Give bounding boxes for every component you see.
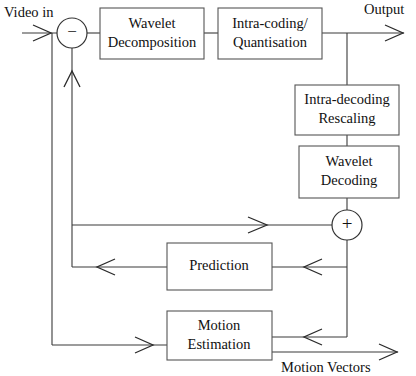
diagram-canvas: Wavelet Decomposition Intra-coding/ Quan… (0, 0, 416, 376)
block-wavelet-decomposition-line2: Decomposition (108, 34, 197, 50)
block-intra-decoding[interactable]: Intra-decoding Rescaling (295, 85, 399, 135)
block-intra-coding-line2: Quantisation (233, 34, 308, 50)
block-motion-estimation-line2: Estimation (188, 336, 252, 352)
operator-adder[interactable]: + (332, 210, 362, 240)
block-wavelet-decomposition[interactable]: Wavelet Decomposition (100, 8, 204, 59)
block-motion-estimation-line1: Motion (198, 317, 241, 333)
block-intra-coding[interactable]: Intra-coding/ Quantisation (218, 8, 322, 59)
block-diagram: Wavelet Decomposition Intra-coding/ Quan… (0, 0, 416, 376)
subtractor-symbol: − (67, 22, 77, 41)
block-wavelet-decoding-line1: Wavelet (325, 153, 372, 169)
block-prediction[interactable]: Prediction (167, 243, 272, 290)
block-intra-coding-line1: Intra-coding/ (232, 15, 309, 31)
label-motion-vectors: Motion Vectors (281, 359, 371, 375)
block-wavelet-decomposition-line1: Wavelet (128, 15, 175, 31)
block-wavelet-decoding[interactable]: Wavelet Decoding (299, 146, 399, 198)
label-output: Output (364, 1, 404, 17)
block-intra-decoding-line1: Intra-decoding (304, 91, 389, 107)
block-wavelet-decoding-line2: Decoding (321, 172, 377, 188)
block-intra-decoding-line2: Rescaling (318, 110, 375, 126)
label-video-in: Video in (4, 4, 54, 20)
block-motion-estimation[interactable]: Motion Estimation (167, 311, 272, 360)
operator-subtractor[interactable]: − (57, 18, 87, 48)
adder-symbol: + (342, 213, 353, 234)
block-prediction-line1: Prediction (189, 257, 249, 273)
